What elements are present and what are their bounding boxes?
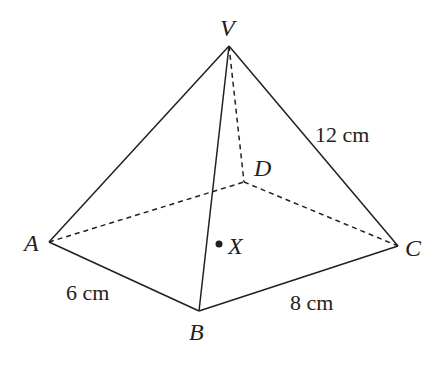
label-d: D: [253, 155, 271, 181]
edge-va: [49, 46, 229, 242]
edge-vc: [229, 46, 398, 246]
label-b: B: [189, 319, 204, 345]
measure-ab: 6 cm: [66, 280, 109, 305]
label-a: A: [22, 230, 39, 256]
label-c: C: [405, 235, 422, 261]
label-x: X: [227, 233, 244, 259]
edge-dc-hidden: [244, 182, 398, 246]
label-v: V: [220, 15, 237, 41]
edge-vb: [199, 46, 229, 311]
edge-ad-hidden: [49, 182, 244, 242]
pyramid-diagram: V A B C D X 6 cm 8 cm 12 cm: [0, 0, 444, 372]
measure-bc: 8 cm: [290, 290, 333, 315]
measure-vc: 12 cm: [315, 122, 369, 147]
point-x-dot: [216, 241, 223, 248]
edge-vd-hidden: [229, 46, 244, 182]
